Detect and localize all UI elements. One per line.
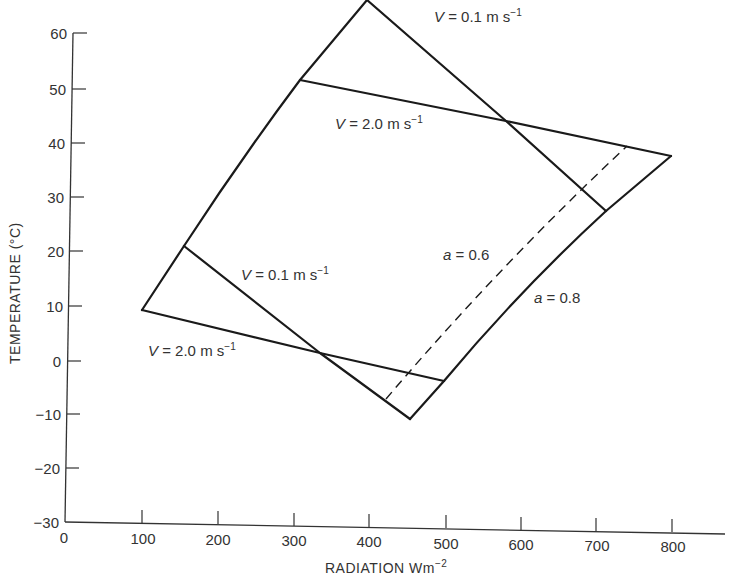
x-tick-label: 200 [205, 531, 230, 548]
x-tick-labels: 0 100 200 300 400 500 600 700 800 [60, 529, 686, 555]
x-axis-title-sup: −2 [435, 558, 447, 569]
label-rest: = 0.1 m s [251, 266, 317, 283]
label-a06: a = 0.6 [443, 246, 489, 263]
y-tick-label: 10 [46, 298, 63, 315]
x-tick-label: 300 [281, 532, 306, 549]
label-sup: −1 [317, 265, 329, 276]
x-axis-title: RADIATION Wm−2 [325, 558, 447, 576]
a08-curve [410, 156, 671, 419]
label-var: a [443, 246, 451, 263]
y-tick-label: 20 [47, 243, 64, 260]
y-tick-label: −10 [36, 406, 61, 423]
label-rest: = 2.0 m s [345, 115, 411, 132]
a06-dashed-curve [386, 146, 627, 399]
label-rest: = 0.1 m s [444, 8, 510, 25]
x-tick-label: 400 [356, 533, 381, 550]
axes [65, 33, 725, 534]
y-axis-title: TEMPERATURE (°C) [7, 222, 23, 364]
y-tick-label: 40 [48, 135, 65, 152]
x-tick-label: 500 [433, 535, 458, 552]
y-tick-labels: 60 50 40 30 20 10 0 −10 −20 −30 [34, 25, 67, 531]
x-tick-label: 600 [508, 536, 533, 553]
chart-canvas: 60 50 40 30 20 10 0 −10 −20 −30 0 100 20… [0, 0, 730, 582]
x-tick-label: 700 [584, 537, 609, 554]
x-axis-line [65, 522, 725, 534]
y-tick-label: 50 [49, 81, 66, 98]
label-var: a [534, 289, 542, 306]
label-v20-lower: V = 2.0 m s−1 [148, 341, 236, 359]
x-tick-label: 0 [60, 529, 68, 546]
label-v01-upper: V = 0.1 m s−1 [434, 7, 522, 25]
y-tick-label: 60 [50, 25, 67, 42]
y-tick-label: 0 [53, 353, 61, 370]
label-sup: −1 [224, 341, 236, 352]
upper-v01-line [367, 0, 606, 211]
y-axis-line [65, 33, 73, 522]
label-sup: −1 [411, 114, 423, 125]
label-rest: = 0.6 [451, 246, 489, 263]
label-v01-lower: V = 0.1 m s−1 [241, 265, 329, 283]
y-tick-label: −20 [35, 460, 60, 477]
label-rest: = 0.8 [542, 289, 580, 306]
y-tick-label: 30 [47, 189, 64, 206]
annotations: V = 0.1 m s−1 V = 2.0 m s−1 V = 0.1 m s−… [148, 7, 580, 359]
left-boundary-curve [142, 0, 367, 310]
label-v20-upper: V = 2.0 m s−1 [335, 114, 423, 132]
x-axis-title-text: RADIATION Wm [325, 560, 435, 576]
y-tick-label: −30 [34, 514, 59, 531]
label-sup: −1 [510, 7, 522, 18]
label-a08: a = 0.8 [534, 289, 580, 306]
label-rest: = 2.0 m s [158, 342, 224, 359]
x-tick-label: 100 [130, 530, 155, 547]
x-tick-label: 800 [660, 538, 685, 555]
